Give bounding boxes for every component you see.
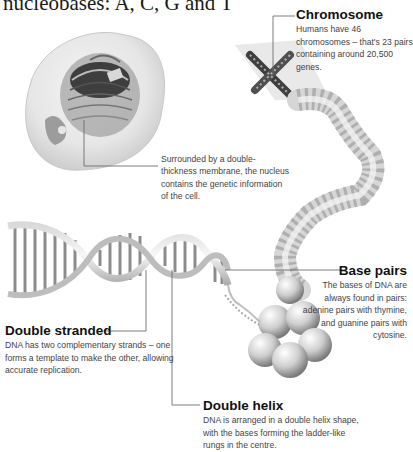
callout-body: The bases of DNA are always found in pai… — [297, 279, 407, 342]
callout-title: Double helix — [203, 398, 368, 414]
callout-body: Humans have 46 chromosomes – that's 23 p… — [296, 23, 413, 73]
callout-title: Base pairs — [297, 263, 407, 279]
dna-helix-illustration — [8, 225, 260, 322]
chromatin-coil-illustration — [285, 99, 373, 290]
callout-body: DNA is arranged in a double helix shape,… — [203, 414, 368, 452]
callout-title: Chromosome — [296, 7, 413, 23]
callout-body: DNA has two complementary strands – one … — [5, 339, 180, 377]
callout-double-stranded: Double stranded DNA has two complementar… — [5, 323, 180, 377]
cell-illustration — [26, 32, 165, 170]
callout-nucleus: Surrounded by a double-thickness membran… — [161, 153, 291, 202]
callout-body: Surrounded by a double-thickness membran… — [161, 153, 291, 202]
callout-double-helix: Double helix DNA is arranged in a double… — [203, 398, 368, 452]
callout-title: Double stranded — [5, 323, 180, 339]
callout-base-pairs: Base pairs The bases of DNA are always f… — [297, 263, 407, 342]
callout-chromosome: Chromosome Humans have 46 chromosomes – … — [296, 7, 413, 73]
